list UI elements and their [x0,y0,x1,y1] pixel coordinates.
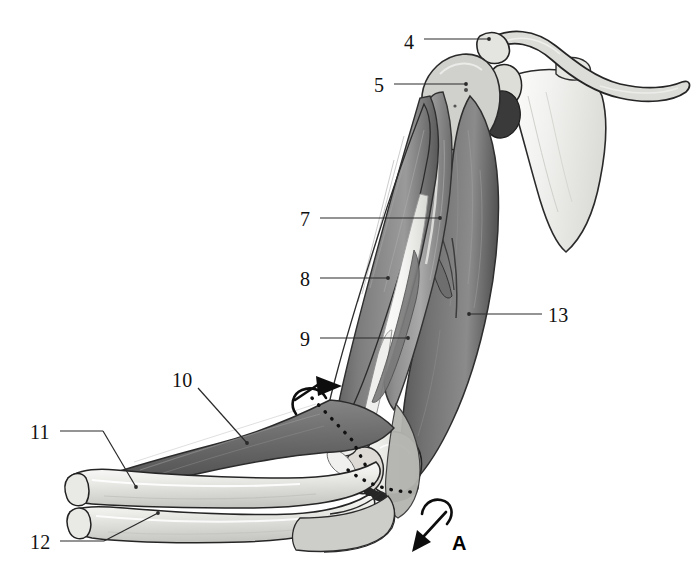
anatomy-figure: 4 5 7 8 9 10 11 12 13 A [0,0,695,582]
radius-distal-end [65,474,89,506]
label-4: 4 [404,32,414,52]
label-8: 8 [300,269,310,289]
label-5: 5 [374,75,384,95]
marker-a: A [452,533,466,553]
label-7: 7 [300,209,310,229]
label-13: 13 [548,305,569,325]
label-11: 11 [30,422,50,442]
label-10: 10 [172,370,193,390]
label-9: 9 [300,329,310,349]
anatomy-illustration-svg [0,0,695,582]
label-12: 12 [30,532,51,552]
ulna-distal-end [67,508,91,539]
